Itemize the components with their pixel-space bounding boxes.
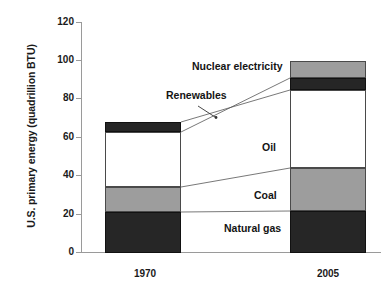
y-tick-80: 80 [38,93,74,103]
x-tick-label-1970: 1970 [115,268,175,279]
x-tick-label-2005: 2005 [298,268,358,279]
annotation-coal: Coal [254,189,277,201]
energy-stacked-bar-chart: U.S. primary energy (quadrillion BTU) 12… [0,0,386,295]
bar-1970-segment-oil [105,132,181,187]
y-tick-60: 60 [38,132,74,142]
bar-2005-segment-natural-gas [290,211,366,253]
annotation-oil: Oil [262,141,276,153]
y-tick-40: 40 [38,170,74,180]
bar-1970-segment-nuclear-electricity [105,122,181,132]
y-axis-tick-labels: 120 100 80 60 40 20 0 [30,0,74,295]
annotation-natural-gas: Natural gas [224,222,281,234]
bar-1970-segment-natural-gas [105,212,181,253]
bar-1970[interactable] [105,122,181,253]
annotation-nuclear-electricity: Nuclear electricity [192,60,282,72]
bar-2005[interactable] [290,61,366,253]
bar-2005-segment-nuclear-electricity [290,78,366,90]
y-tick-120: 120 [38,17,74,27]
y-tick-0: 0 [38,247,74,257]
annotation-renewables: Renewables [166,89,227,101]
bar-2005-segment-oil [290,90,366,168]
bar-1970-segment-coal [105,187,181,212]
y-tick-20: 20 [38,209,74,219]
y-tick-100: 100 [38,55,74,65]
bar-2005-segment-coal [290,168,366,211]
bar-2005-segment-renewables [290,61,366,78]
